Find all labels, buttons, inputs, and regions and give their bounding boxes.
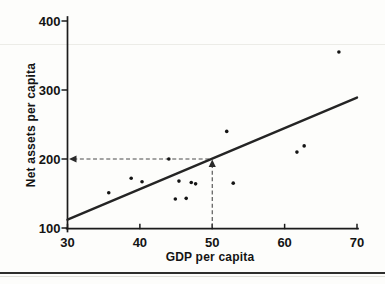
left-arrow-icon	[69, 155, 77, 162]
data-point	[231, 181, 235, 185]
page-rule	[0, 272, 385, 274]
scatter-plot: 1002003004003040506070	[0, 0, 385, 284]
data-point	[107, 191, 111, 195]
x-tick-label: 30	[60, 235, 74, 250]
y-axis-title: Net assets per capita	[24, 45, 38, 205]
data-point	[167, 157, 171, 161]
data-point	[189, 181, 193, 185]
data-point	[177, 179, 181, 183]
data-point	[174, 197, 178, 201]
data-point	[129, 177, 133, 181]
data-point	[225, 130, 229, 134]
data-point	[184, 197, 188, 201]
data-point	[302, 144, 306, 148]
x-tick-label: 70	[350, 235, 364, 250]
data-point	[194, 182, 198, 186]
data-point	[295, 150, 299, 154]
page-rule-shadow	[0, 276, 385, 277]
trend-line	[68, 98, 358, 220]
data-point	[337, 50, 341, 54]
y-tick-label: 200	[39, 152, 61, 167]
y-tick-label: 100	[39, 221, 61, 236]
data-point	[140, 180, 144, 184]
y-tick-label: 400	[39, 14, 61, 29]
x-tick-label: 60	[277, 235, 291, 250]
y-tick-label: 300	[39, 83, 61, 98]
x-tick-label: 40	[133, 235, 147, 250]
scatter-figure: 1002003004003040506070 Net assets per ca…	[0, 0, 385, 284]
x-tick-label: 50	[205, 235, 219, 250]
x-axis-title: GDP per capita	[130, 250, 290, 264]
